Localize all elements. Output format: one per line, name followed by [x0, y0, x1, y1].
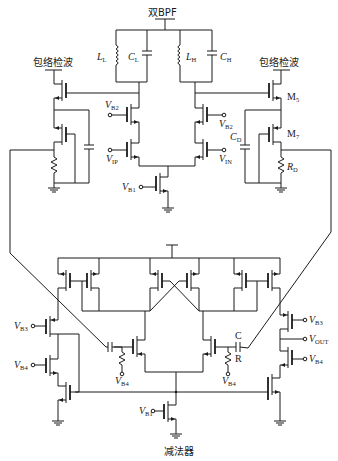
resistor-R-icon: [225, 352, 231, 365]
label-VB3-left: VB3: [14, 320, 28, 332]
label-VIP: VIP: [106, 153, 118, 165]
ground-icon: [48, 188, 60, 192]
label-VB4-mid-left: VB4: [115, 375, 129, 387]
resistor-icon: [119, 352, 125, 365]
label-LH: LH: [185, 51, 197, 63]
label-VB1-top: VB1: [122, 181, 136, 193]
label-VB2-right: VB2: [219, 118, 233, 130]
label-VOUT: VOUT: [309, 333, 328, 345]
label-VB2-left: VB2: [105, 99, 119, 111]
resistor-RD-icon: [278, 157, 284, 173]
label-CD: CD: [230, 131, 242, 143]
label-VB4-mid-right: VB4: [222, 375, 236, 387]
resistor-icon: [51, 157, 57, 173]
ground-icon: [170, 434, 182, 438]
label-M5: M5: [287, 91, 299, 103]
inductor-LL-icon: [116, 45, 118, 65]
subtractor-block: [31, 245, 307, 438]
label-VIN: VIN: [219, 153, 232, 165]
label-C: C: [235, 330, 242, 341]
ground-icon: [52, 421, 64, 425]
dual-bpf-label: 双BPF: [148, 7, 177, 18]
label-R: R: [235, 353, 242, 364]
label-M7: M7: [287, 128, 300, 140]
circuit-schematic: 双BPF 包络检波 包络检波 减法器 LL CL LH CH M5 M7 CD …: [0, 0, 338, 461]
ground-icon: [274, 421, 286, 425]
label-VB4-left: VB4: [14, 359, 28, 371]
differential-pair-block: [108, 93, 226, 212]
label-VB3-right: VB3: [309, 314, 323, 326]
envelope-detector-left-label: 包络检波: [33, 56, 73, 68]
ground-icon: [162, 208, 174, 212]
label-CL: CL: [128, 51, 139, 63]
label-VB4-right: VB4: [309, 353, 323, 365]
envelope-detector-right-block: [240, 70, 331, 348]
ground-icon: [275, 188, 287, 192]
label-VB1-bottom: VB1: [139, 405, 153, 417]
envelope-detector-right-label: 包络检波: [259, 56, 299, 68]
subtractor-label: 减法器: [164, 445, 194, 457]
label-LL: LL: [96, 51, 107, 63]
inductor-LH-icon: [178, 45, 180, 65]
label-CH: CH: [220, 51, 232, 63]
label-RD: RD: [286, 161, 298, 173]
